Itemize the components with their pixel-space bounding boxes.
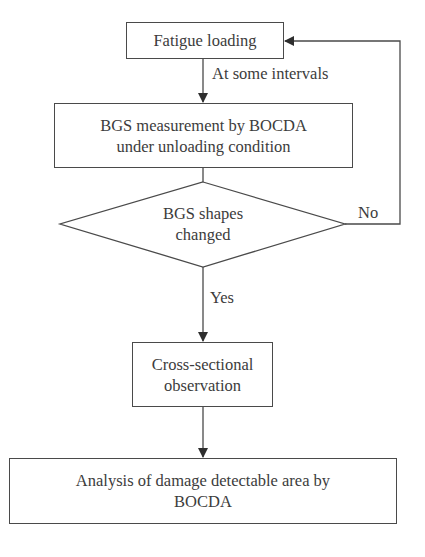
no-label: No	[358, 203, 378, 223]
fatigue-loading-box: Fatigue loading	[126, 22, 284, 59]
cross-sectional-line2: observation	[164, 375, 241, 396]
flowchart: Fatigue loading At some intervals BGS me…	[0, 0, 425, 557]
analysis-line1: Analysis of damage detectable area by	[76, 470, 330, 491]
bgs-measurement-line1: BGS measurement by BOCDA	[100, 115, 307, 136]
cross-sectional-line1: Cross-sectional	[152, 354, 254, 375]
yes-label: Yes	[210, 288, 234, 308]
decision-line2: changed	[123, 224, 283, 245]
fatigue-loading-text: Fatigue loading	[153, 30, 256, 51]
analysis-box: Analysis of damage detectable area by BO…	[9, 458, 397, 524]
bgs-measurement-box: BGS measurement by BOCDA under unloading…	[54, 103, 353, 168]
analysis-line2: BOCDA	[174, 491, 232, 512]
bgs-measurement-line2: under unloading condition	[116, 136, 290, 157]
at-some-intervals-label: At some intervals	[212, 64, 328, 84]
decision-text: BGS shapes changed	[123, 203, 283, 245]
cross-sectional-box: Cross-sectional observation	[132, 342, 273, 407]
decision-line1: BGS shapes	[123, 203, 283, 224]
